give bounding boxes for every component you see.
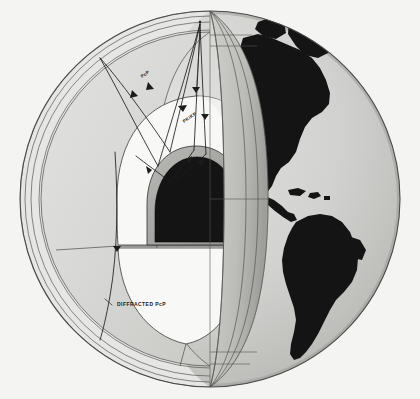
- continent-puerto-rico: [324, 196, 330, 200]
- label-diffracted-pcp: DIFFRACTED PcP: [117, 301, 166, 307]
- earth-interior-diagram: PcP PKiKP DIFFRACTED PcP: [0, 0, 420, 399]
- source-point: [199, 21, 201, 23]
- globe: [20, 11, 400, 387]
- diagram-canvas: PcP PKiKP DIFFRACTED PcP: [0, 0, 420, 399]
